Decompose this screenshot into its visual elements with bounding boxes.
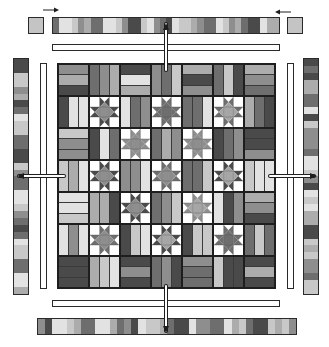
- border-segment: [81, 319, 88, 334]
- rail-block-vertical: [58, 96, 89, 128]
- rail-stripe: [245, 213, 274, 223]
- rail-stripe: [121, 266, 150, 276]
- rail-stripe: [245, 266, 274, 276]
- border-segment: [14, 225, 28, 232]
- rail-stripe: [121, 277, 150, 287]
- rail-stripe: [223, 193, 233, 223]
- rail-stripe: [78, 161, 88, 191]
- border-segment: [304, 218, 318, 225]
- rail-stripe: [245, 193, 274, 202]
- border-segment: [14, 149, 28, 156]
- star-block: [151, 96, 182, 128]
- border-segment: [74, 319, 81, 334]
- star-block: [182, 192, 213, 224]
- border-segment: [14, 100, 28, 107]
- border-segment: [304, 114, 318, 121]
- arrow-left-icon: [274, 7, 292, 17]
- rail-block-horizontal: [120, 256, 151, 288]
- rail-stripe: [59, 277, 88, 287]
- star-block: [213, 160, 244, 192]
- rail-stripe: [214, 193, 223, 223]
- rail-block-vertical: [89, 128, 120, 160]
- border-segment: [14, 94, 28, 101]
- rail-stripe: [68, 97, 78, 127]
- corner-square-top-right: [287, 17, 303, 34]
- rail-block-horizontal: [244, 192, 275, 224]
- border-segment: [304, 183, 318, 190]
- rail-stripe: [161, 257, 171, 287]
- border-segment: [14, 66, 28, 73]
- border-segment: [117, 319, 124, 334]
- rail-stripe: [245, 65, 274, 74]
- border-segment: [14, 232, 28, 239]
- border-segment: [138, 319, 145, 334]
- border-segment: [304, 239, 318, 246]
- border-strip-left: [13, 58, 29, 295]
- rail-stripe: [130, 161, 140, 191]
- rail-stripe: [152, 65, 161, 95]
- border-segment: [38, 319, 45, 334]
- rail-stripe: [183, 65, 212, 74]
- rail-block-vertical: [151, 192, 182, 224]
- border-segment: [88, 319, 95, 334]
- border-segment: [95, 319, 102, 334]
- rail-stripe: [68, 225, 78, 255]
- border-segment: [14, 176, 28, 183]
- rail-stripe: [214, 65, 223, 95]
- rail-block-vertical: [151, 256, 182, 288]
- border-segment: [304, 252, 318, 259]
- rail-stripe: [152, 193, 161, 223]
- rail-stripe: [90, 257, 99, 287]
- rail-block-vertical: [58, 224, 89, 256]
- rail-stripe: [264, 225, 274, 255]
- rail-stripe: [245, 97, 254, 127]
- border-segment: [14, 59, 28, 66]
- rail-stripe: [233, 65, 243, 95]
- rail-stripe: [99, 257, 109, 287]
- rail-stripe: [192, 161, 202, 191]
- border-segment: [196, 319, 203, 334]
- border-segment: [14, 259, 28, 266]
- rail-stripe: [121, 97, 130, 127]
- border-segment: [103, 319, 110, 334]
- rail-stripe: [121, 74, 150, 84]
- rail-block-vertical: [151, 64, 182, 96]
- rail-block-horizontal: [244, 128, 275, 160]
- border-segment: [304, 225, 318, 232]
- border-segment: [304, 87, 318, 94]
- rail-stripe: [183, 161, 192, 191]
- rail-block-vertical: [244, 96, 275, 128]
- rail-stripe: [183, 266, 212, 276]
- rail-block-horizontal: [58, 192, 89, 224]
- border-segment: [304, 245, 318, 252]
- rail-stripe: [59, 266, 88, 276]
- border-segment: [304, 142, 318, 149]
- border-segment: [67, 319, 74, 334]
- border-segment: [203, 319, 210, 334]
- rail-stripe: [59, 257, 88, 266]
- sashing-strip-right: [287, 63, 294, 289]
- border-segment: [304, 156, 318, 163]
- rail-block-vertical: [213, 256, 244, 288]
- border-segment: [304, 163, 318, 170]
- rail-stripe: [59, 202, 88, 212]
- border-segment: [304, 287, 318, 294]
- rail-stripe: [214, 257, 223, 287]
- rail-stripe: [130, 97, 140, 127]
- border-segment: [304, 204, 318, 211]
- border-strip-right: [303, 58, 319, 295]
- border-segment: [304, 259, 318, 266]
- rail-stripe: [121, 257, 150, 266]
- border-segment: [181, 319, 188, 334]
- border-segment: [304, 128, 318, 135]
- border-segment: [14, 87, 28, 94]
- rail-stripe: [161, 129, 171, 159]
- border-segment: [304, 197, 318, 204]
- border-segment: [304, 280, 318, 287]
- star-block: [89, 160, 120, 192]
- rail-block-vertical: [120, 224, 151, 256]
- rail-block-vertical: [182, 160, 213, 192]
- border-segment: [275, 319, 282, 334]
- rail-stripe: [171, 129, 181, 159]
- border-segment: [304, 135, 318, 142]
